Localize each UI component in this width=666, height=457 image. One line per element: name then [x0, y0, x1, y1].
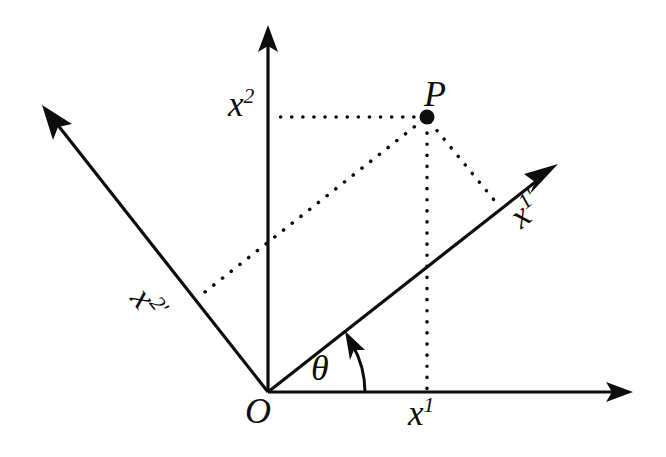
label-x1-axis: x1 [408, 396, 434, 431]
label-x2-superscript: 2 [244, 84, 255, 108]
coordinate-rotation-figure: x2 x1 O P θ x1′ x2′ [0, 0, 666, 457]
label-x2-axis: x2 [228, 87, 254, 122]
x2prime-axis-line [57, 124, 268, 392]
label-origin: O [245, 393, 271, 429]
label-x1-base: x [408, 394, 424, 433]
projection-P-to-x1prime-axis [430, 122, 499, 206]
theta-arc-arrowhead [345, 331, 365, 360]
projection-P-to-x2prime-axis [205, 120, 423, 292]
figure-canvas [0, 0, 666, 457]
theta-angle-arc [345, 331, 365, 392]
label-theta: θ [311, 350, 329, 386]
label-x2-base: x [228, 85, 244, 124]
x2-axis [258, 25, 278, 392]
label-x1-superscript: 1 [424, 393, 435, 417]
theta-arc-path [352, 344, 365, 392]
label-point-P: P [424, 76, 446, 112]
x2prime-axis [42, 105, 268, 392]
